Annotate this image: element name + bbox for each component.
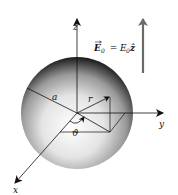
radius-label: a — [52, 92, 57, 102]
y-axis-label: y — [158, 119, 165, 129]
field-lhs-sub: 0 — [101, 47, 105, 54]
z-axis-label: z — [72, 22, 78, 32]
x-axis-label: x — [13, 185, 18, 195]
angle-label: ϑ — [72, 128, 79, 138]
field-equation: E 0 = E 0 ẑ — [93, 41, 136, 54]
sphere-diagram: z y x a r ϑ E 0 = E 0 ẑ — [0, 0, 178, 195]
field-lhs: E — [93, 43, 101, 53]
position-label: r — [88, 94, 93, 104]
field-equals: = — [107, 43, 120, 53]
field-unit: ẑ — [129, 43, 136, 53]
